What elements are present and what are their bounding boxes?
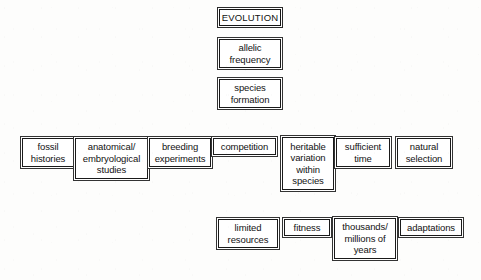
concept-box-species-formation[interactable]: species formation (219, 79, 281, 108)
concept-box-label: allelic frequency (230, 42, 271, 65)
concept-box-label: species formation (231, 82, 270, 105)
concept-box-label: breeding experiments (155, 141, 206, 164)
concept-box-breeding-experiments[interactable]: breeding experiments (149, 138, 211, 167)
concept-box-competition[interactable]: competition (213, 138, 276, 155)
concept-box-label: EVOLUTION (222, 12, 279, 24)
concept-box-label: thousands/ millions of years (342, 221, 387, 256)
concept-box-label: anatomical/ embryological studies (83, 141, 140, 176)
diagram-canvas: EVOLUTION allelic frequency species form… (0, 0, 481, 280)
concept-box-label: fossil histories (31, 141, 65, 164)
concept-box-label: fitness (294, 222, 321, 234)
concept-box-label: heritable variation within species (290, 141, 326, 187)
concept-box-anatomical-embryological-studies[interactable]: anatomical/ embryological studies (75, 138, 148, 179)
concept-box-evolution[interactable]: EVOLUTION (219, 9, 281, 26)
concept-box-thousands-millions-of-years[interactable]: thousands/ millions of years (334, 218, 396, 259)
concept-box-label: natural selection (406, 141, 443, 164)
concept-box-label: limited resources (228, 222, 269, 245)
concept-box-fossil-histories[interactable]: fossil histories (22, 138, 74, 167)
concept-box-allelic-frequency[interactable]: allelic frequency (219, 39, 281, 68)
concept-box-label: sufficient time (345, 141, 381, 164)
concept-box-fitness[interactable]: fitness (284, 219, 330, 236)
concept-box-label: competition (221, 141, 268, 153)
concept-box-adaptations[interactable]: adaptations (400, 219, 462, 236)
concept-box-natural-selection[interactable]: natural selection (397, 138, 451, 167)
concept-box-heritable-variation-within-species[interactable]: heritable variation within species (282, 137, 334, 190)
concept-box-sufficient-time[interactable]: sufficient time (336, 138, 390, 167)
concept-box-label: adaptations (407, 222, 455, 234)
concept-box-limited-resources[interactable]: limited resources (218, 219, 278, 248)
